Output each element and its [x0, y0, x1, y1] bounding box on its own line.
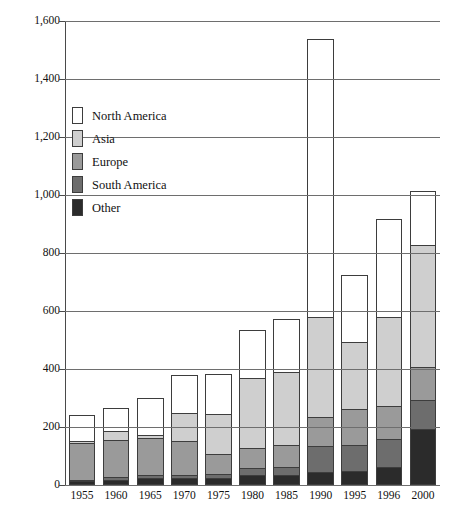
x-tick-label: 1970 — [167, 489, 201, 502]
legend-swatch-icon — [72, 130, 83, 147]
bar-segment-europe[interactable] — [69, 443, 96, 480]
bar-segment-europe[interactable] — [410, 367, 437, 401]
bar-segment-europe[interactable] — [239, 448, 266, 469]
legend-item-label: South America — [92, 178, 167, 192]
y-tick-label: 200 — [6, 421, 60, 433]
y-tick-0 — [59, 485, 65, 486]
y-tick-label: 600 — [6, 305, 60, 317]
bar-segment-asia[interactable] — [103, 431, 130, 441]
bar-segment-other[interactable] — [410, 429, 437, 485]
bar-segment-north-america[interactable] — [376, 219, 403, 319]
bar-segment-asia[interactable] — [376, 317, 403, 406]
x-tick-label: 1980 — [235, 489, 269, 502]
bar-segment-asia[interactable] — [239, 378, 266, 449]
bar-segment-north-america[interactable] — [69, 415, 96, 442]
y-tick-label: 800 — [6, 247, 60, 259]
chart-legend: North AmericaAsiaEuropeSouth AmericaOthe… — [72, 104, 242, 219]
y-tick-label: 1,600 — [6, 15, 60, 27]
bar-segment-north-america[interactable] — [341, 275, 368, 343]
bar-segment-other[interactable] — [239, 475, 266, 485]
bar-segment-europe[interactable] — [376, 406, 403, 440]
bar-segment-other[interactable] — [137, 478, 164, 485]
bar-segment-europe[interactable] — [137, 438, 164, 476]
gridline-1400 — [65, 79, 440, 80]
x-tick-label: 2000 — [406, 489, 440, 502]
x-axis-labels: 1955196019651970197519801985199019951996… — [65, 487, 440, 511]
y-tick-1200 — [59, 137, 65, 138]
x-tick-label: 1990 — [304, 489, 338, 502]
bar-segment-south-america[interactable] — [239, 468, 266, 476]
y-axis-labels: 02004006008001,0001,2001,4001,600 — [0, 0, 60, 522]
x-tick-label: 1960 — [99, 489, 133, 502]
bar-segment-north-america[interactable] — [103, 408, 130, 432]
bar-segment-other[interactable] — [171, 478, 198, 485]
y-tick-1400 — [59, 79, 65, 80]
legend-item-label: Europe — [92, 155, 128, 169]
bar-segment-asia[interactable] — [307, 317, 334, 418]
bar-segment-europe[interactable] — [205, 454, 232, 475]
legend-item-europe[interactable]: Europe — [72, 150, 242, 173]
y-tick-400 — [59, 369, 65, 370]
y-tick-1600 — [59, 21, 65, 22]
bar-segment-north-america[interactable] — [307, 39, 334, 318]
legend-item-south-america[interactable]: South America — [72, 173, 242, 196]
bar-segment-south-america[interactable] — [307, 446, 334, 473]
legend-item-label: North America — [92, 109, 167, 123]
bar-segment-other[interactable] — [273, 475, 300, 485]
bar-segment-south-america[interactable] — [410, 400, 437, 430]
y-tick-800 — [59, 253, 65, 254]
gridline-400 — [65, 369, 440, 370]
bar-segment-asia[interactable] — [273, 372, 300, 446]
bar-segment-other[interactable] — [376, 467, 403, 485]
bar-segment-south-america[interactable] — [341, 445, 368, 472]
bar-segment-north-america[interactable] — [205, 374, 232, 416]
bar-segment-europe[interactable] — [103, 440, 130, 479]
bar-segment-north-america[interactable] — [410, 191, 437, 246]
bar-segment-north-america[interactable] — [171, 375, 198, 414]
legend-item-label: Asia — [92, 132, 115, 146]
legend-item-other[interactable]: Other — [72, 196, 242, 219]
x-tick-label: 1995 — [338, 489, 372, 502]
legend-swatch-icon — [72, 107, 83, 124]
y-tick-600 — [59, 311, 65, 312]
y-tick-label: 1,400 — [6, 73, 60, 85]
bar-segment-other[interactable] — [205, 478, 232, 485]
gridline-800 — [65, 253, 440, 254]
x-tick-label: 1975 — [201, 489, 235, 502]
bar-segment-europe[interactable] — [171, 441, 198, 476]
gridline-1600 — [65, 21, 440, 22]
stacked-bar-chart: 02004006008001,0001,2001,4001,600 195519… — [0, 0, 463, 522]
gridline-600 — [65, 311, 440, 312]
bar-segment-north-america[interactable] — [239, 330, 266, 379]
legend-item-label: Other — [92, 201, 120, 215]
bar-segment-north-america[interactable] — [137, 398, 164, 435]
y-tick-label: 400 — [6, 363, 60, 375]
y-tick-label: 0 — [6, 479, 60, 491]
y-tick-200 — [59, 427, 65, 428]
x-tick-label: 1985 — [270, 489, 304, 502]
gridline-0 — [65, 485, 440, 486]
bar-segment-north-america[interactable] — [273, 319, 300, 374]
legend-swatch-icon — [72, 176, 83, 193]
bar-segment-asia[interactable] — [341, 342, 368, 410]
legend-swatch-icon — [72, 153, 83, 170]
bar-segment-south-america[interactable] — [273, 467, 300, 477]
legend-item-asia[interactable]: Asia — [72, 127, 242, 150]
bar-segment-europe[interactable] — [307, 417, 334, 447]
bar-segment-south-america[interactable] — [376, 439, 403, 468]
x-tick-label: 1996 — [372, 489, 406, 502]
bar-segment-asia[interactable] — [410, 245, 437, 368]
gridline-200 — [65, 427, 440, 428]
bar-segment-other[interactable] — [341, 471, 368, 485]
y-tick-label: 1,000 — [6, 189, 60, 201]
x-tick-label: 1955 — [65, 489, 99, 502]
legend-swatch-icon — [72, 199, 83, 216]
plot-area — [65, 21, 440, 485]
y-tick-1000 — [59, 195, 65, 196]
bar-segment-other[interactable] — [307, 472, 334, 485]
bar-segment-asia[interactable] — [205, 414, 232, 454]
bar-segment-europe[interactable] — [273, 445, 300, 468]
y-tick-label: 1,200 — [6, 131, 60, 143]
legend-item-north-america[interactable]: North America — [72, 104, 242, 127]
x-tick-label: 1965 — [133, 489, 167, 502]
